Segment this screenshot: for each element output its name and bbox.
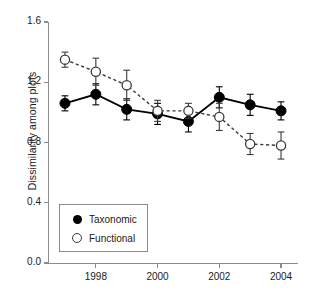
data-point [184, 106, 193, 115]
plot-area: 0.00.40.81.21.6 1998200020022004 Taxonom… [48, 22, 298, 263]
open-circle-icon [69, 233, 85, 243]
x-axis-line [48, 263, 298, 264]
x-tick-mark [95, 263, 96, 268]
data-point [60, 55, 69, 64]
data-point [245, 100, 255, 110]
chart-legend: Taxonomic Functional [59, 204, 148, 252]
y-tick-label: 1.6 [15, 15, 41, 26]
data-point [91, 89, 101, 99]
series-taxonomic [60, 84, 286, 132]
x-tick-mark [219, 263, 220, 268]
chart-figure: Dissimilarity among plots 0.00.40.81.21.… [0, 0, 311, 303]
x-tick-label: 1998 [76, 271, 116, 282]
data-point [276, 141, 285, 150]
x-tick-mark [280, 263, 281, 268]
filled-circle-icon [69, 215, 85, 224]
data-point [153, 106, 162, 115]
data-point [91, 67, 100, 76]
y-tick-label: 0.8 [15, 136, 41, 147]
y-tick-label: 0.0 [15, 256, 41, 267]
legend-item-functional: Functional [69, 230, 135, 246]
y-tick-label: 0.4 [15, 196, 41, 207]
data-point [215, 112, 224, 121]
legend-label-taxonomic: Taxonomic [89, 214, 137, 225]
data-point [276, 106, 286, 116]
legend-item-taxonomic: Taxonomic [69, 211, 137, 227]
data-point [122, 104, 132, 114]
legend-label-functional: Functional [89, 233, 135, 244]
data-point [214, 92, 224, 102]
data-point [246, 139, 255, 148]
x-tick-label: 2004 [261, 271, 301, 282]
data-point [122, 81, 131, 90]
y-tick-label: 1.2 [15, 75, 41, 86]
x-tick-mark [157, 263, 158, 268]
data-point [60, 98, 70, 108]
x-tick-label: 2002 [199, 271, 239, 282]
x-tick-label: 2000 [138, 271, 178, 282]
